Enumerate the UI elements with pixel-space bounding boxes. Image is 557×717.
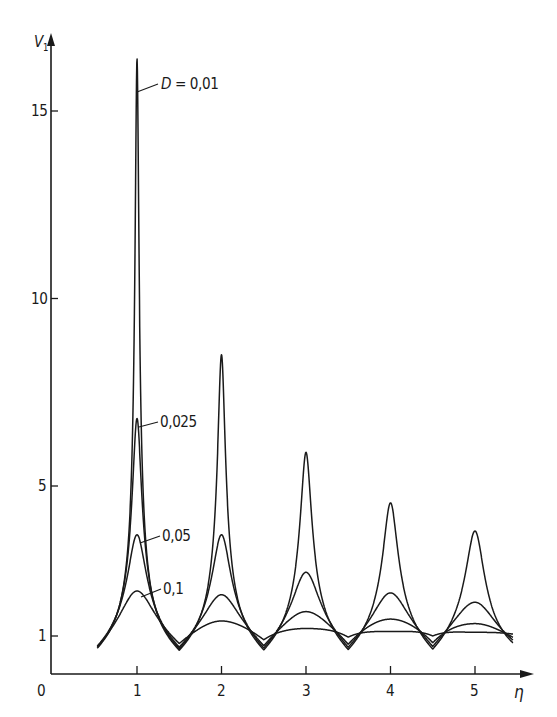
resonance-chart	[0, 0, 557, 717]
x-tick-label-5: 5	[470, 681, 478, 700]
x-tick-label-4: 4	[386, 681, 394, 700]
axes	[47, 33, 534, 678]
y-tick-label-1: 1	[38, 626, 46, 645]
series-label-d005: 0,05	[162, 526, 191, 545]
curve-d001	[97, 59, 513, 650]
curves	[97, 59, 513, 650]
x-tick-label-3: 3	[302, 681, 310, 700]
x-axis-arrow-icon	[520, 670, 534, 678]
curve-d005	[97, 535, 513, 647]
series-label-d001-value: = 0,01	[175, 74, 218, 93]
x-tick-label-1: 1	[133, 681, 141, 700]
y-tick-label-15: 15	[31, 101, 47, 120]
leader-d001	[137, 84, 158, 92]
series-label-d001-symbol: D	[161, 74, 171, 93]
y-tick-label-10: 10	[31, 289, 47, 308]
ticks	[51, 111, 475, 674]
x-axis-label: η	[514, 681, 523, 702]
y-tick-label-5: 5	[38, 476, 46, 495]
leader-d005	[140, 536, 160, 543]
y-axis-label: V1	[34, 32, 48, 53]
series-label-d001: D = 0,01	[161, 74, 218, 93]
origin-label: 0	[37, 681, 45, 700]
series-label-d0025: 0,025	[160, 412, 197, 431]
y-axis-arrow-icon	[47, 33, 55, 46]
series-label-d01: 0,1	[163, 579, 183, 598]
y-axis-label-subscript: 1	[43, 42, 48, 53]
x-tick-label-2: 2	[217, 681, 225, 700]
